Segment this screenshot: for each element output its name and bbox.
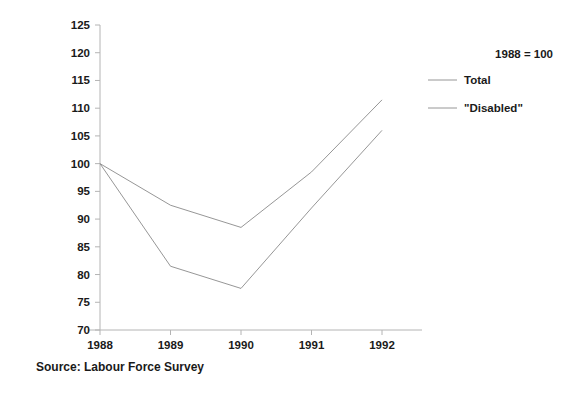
x-tick-label: 1990 bbox=[228, 339, 254, 351]
y-tick-label: 110 bbox=[71, 102, 90, 114]
chart-figure: 7075808590951001051101151201251988198919… bbox=[0, 0, 571, 395]
y-tick-label: 100 bbox=[71, 158, 90, 170]
x-tick-label: 1991 bbox=[299, 339, 325, 351]
x-tick-label: 1992 bbox=[369, 339, 395, 351]
series-line-1 bbox=[100, 100, 382, 228]
line-chart: 7075808590951001051101151201251988198919… bbox=[0, 0, 571, 395]
y-tick-label: 125 bbox=[71, 19, 91, 31]
x-tick-label: 1988 bbox=[87, 339, 113, 351]
legend-label-2: "Disabled" bbox=[464, 102, 523, 114]
x-tick-label: 1989 bbox=[158, 339, 184, 351]
y-tick-label: 105 bbox=[71, 130, 91, 142]
y-tick-label: 75 bbox=[77, 296, 90, 308]
legend-title: 1988 = 100 bbox=[495, 48, 553, 60]
source-caption: Source: Labour Force Survey bbox=[36, 360, 204, 374]
series-line-2 bbox=[100, 130, 382, 288]
y-tick-label: 80 bbox=[77, 269, 90, 281]
legend-label-1: Total bbox=[464, 74, 491, 86]
y-tick-label: 70 bbox=[77, 324, 90, 336]
y-tick-label: 95 bbox=[77, 185, 90, 197]
y-tick-label: 90 bbox=[77, 213, 90, 225]
y-tick-label: 85 bbox=[77, 241, 90, 253]
y-tick-label: 115 bbox=[71, 74, 90, 86]
y-tick-label: 120 bbox=[71, 47, 90, 59]
